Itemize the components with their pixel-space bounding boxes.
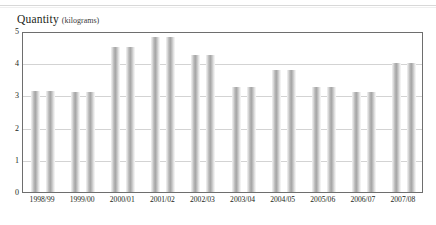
x-tick-label: 2002/03 [179, 196, 225, 204]
bar-group [71, 33, 95, 192]
bar [46, 91, 55, 192]
y-tick-label: 3 [3, 92, 19, 100]
bar-group [151, 33, 175, 192]
bar-group [272, 33, 296, 192]
y-tick-label: 5 [3, 28, 19, 36]
y-tick-label: 0 [3, 189, 19, 197]
bar [191, 55, 200, 192]
bar [272, 70, 281, 192]
x-tick-label: 2006/07 [340, 196, 386, 204]
bar [86, 92, 95, 192]
x-tick-label: 2007/08 [380, 196, 426, 204]
plot-area [22, 32, 423, 193]
y-tick-label: 2 [3, 125, 19, 133]
bar [111, 47, 120, 192]
chart-title-main: Quantity [17, 13, 59, 25]
bar [71, 92, 80, 192]
bar-group [392, 33, 416, 192]
top-divider-secondary [0, 7, 436, 8]
x-tick-label: 1999/00 [59, 196, 105, 204]
bar [327, 87, 336, 192]
bar-group [312, 33, 336, 192]
bar [407, 63, 416, 192]
chart-title-unit: (kilograms) [62, 16, 99, 25]
bar-group [191, 33, 215, 192]
bar-series [23, 33, 422, 192]
bar [247, 87, 256, 192]
bar [206, 55, 215, 192]
bar [312, 87, 321, 192]
bar [367, 92, 376, 192]
bar-group [232, 33, 256, 192]
bar-group [352, 33, 376, 192]
bar [166, 37, 175, 192]
x-axis: 1998/991999/002000/012001/022002/032003/… [22, 196, 423, 210]
x-tick-label: 2004/05 [260, 196, 306, 204]
y-tick-label: 1 [3, 157, 19, 165]
bar-group [31, 33, 55, 192]
x-tick-label: 2001/02 [139, 196, 185, 204]
y-tick-label: 4 [3, 60, 19, 68]
x-tick-label: 2003/04 [220, 196, 266, 204]
y-axis: 012345 [0, 32, 19, 193]
top-divider [0, 5, 436, 6]
bar [126, 47, 135, 192]
bar [392, 63, 401, 192]
x-tick-label: 2005/06 [300, 196, 346, 204]
chart-title: Quantity(kilograms) [17, 9, 99, 27]
bar [287, 70, 296, 192]
bar [232, 87, 241, 192]
bar [151, 37, 160, 192]
x-tick-label: 2000/01 [99, 196, 145, 204]
bar [352, 92, 361, 192]
bar-group [111, 33, 135, 192]
bar [31, 91, 40, 192]
